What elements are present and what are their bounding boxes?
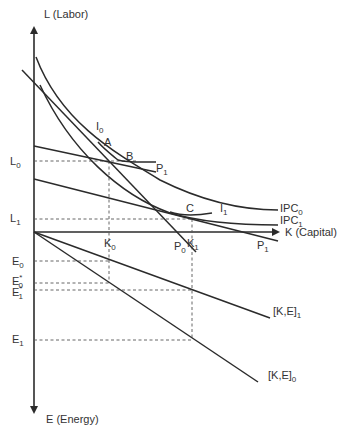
ke1-line: [34, 232, 270, 318]
isoquant-factor-demand-diagram: L (Labor) K (Capital) E (Energy): [0, 0, 361, 436]
energy-rays: [34, 232, 270, 382]
ipc0-curve: [36, 57, 278, 210]
e1star-tick-label: E*1: [12, 284, 23, 301]
point-c-label: C: [186, 202, 194, 214]
point-a-label: A: [104, 136, 112, 148]
tick-labels: L0 L1 K0 K1 E0 E*0 E*1 E1: [10, 155, 199, 348]
l0-tick-label: L0: [10, 155, 21, 170]
curves: [22, 57, 278, 252]
l1-tick-label: L1: [10, 212, 21, 227]
k0-tick-label: K0: [104, 237, 116, 252]
ke1-label: [K,E]1: [273, 305, 302, 320]
p0-label: P0: [174, 240, 186, 255]
energy-axis-label: E (Energy): [46, 413, 99, 425]
p1-upper-line: [34, 146, 156, 172]
point-b-label: B: [126, 150, 133, 162]
curve-labels: I0 A B P1 C I1 IPC0 IPC1 P0 P1 [K,E]1 [K…: [96, 120, 303, 384]
i0-label: I0: [96, 120, 104, 135]
e0-tick-label: E0: [12, 255, 24, 270]
ke0-label: [K,E]0: [268, 369, 297, 384]
capital-axis-label: K (Capital): [285, 226, 337, 238]
ke0-line: [34, 232, 258, 382]
p0-line: [22, 70, 196, 252]
p1-upper-label: P1: [156, 162, 168, 177]
e1-tick-label: E1: [12, 333, 24, 348]
labor-axis-label: L (Labor): [44, 8, 88, 20]
p1-lower-label: P1: [257, 239, 269, 254]
